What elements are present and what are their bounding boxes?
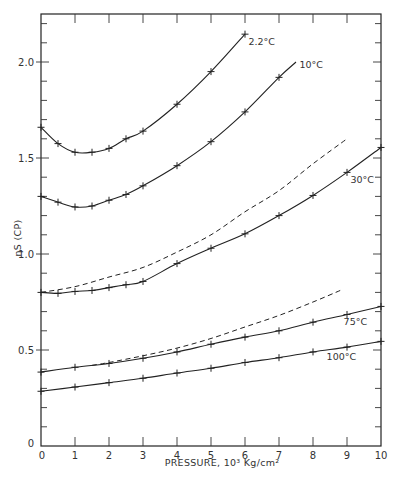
series-line-30-c-dashed — [41, 139, 347, 293]
data-point-30-c — [242, 230, 249, 237]
data-point-75-c — [106, 360, 113, 367]
series-line-10-c — [41, 62, 296, 207]
series-line-30-c — [41, 147, 381, 293]
x-tick-label: 0 — [39, 450, 45, 461]
axis-ticks — [36, 14, 381, 446]
data-point-75-c — [208, 341, 215, 348]
data-point-30-c — [106, 284, 113, 291]
curve-label: 2.2°C — [248, 36, 275, 47]
curve-label: 100°C — [327, 351, 357, 362]
data-point-75-c — [174, 348, 181, 355]
data-point-30-c — [208, 245, 215, 252]
data-point-100-c — [140, 375, 147, 382]
x-tick-label: 2 — [106, 450, 112, 461]
data-series — [38, 31, 385, 395]
data-point-100-c — [344, 344, 351, 351]
x-tick-label: 1 — [72, 450, 78, 461]
x-tick-label: 10 — [375, 450, 388, 461]
data-point-2-2-c — [140, 128, 147, 135]
data-point-30-c — [140, 278, 147, 285]
y-axis-title: ηS (CP) — [12, 220, 23, 257]
y-tick-label: 2.0 — [18, 57, 34, 68]
data-point-75-c — [72, 364, 79, 371]
curve-label: 10°C — [299, 59, 323, 70]
data-point-100-c — [72, 384, 79, 391]
data-point-75-c — [310, 319, 317, 326]
x-tick-label: 3 — [140, 450, 146, 461]
data-point-30-c — [174, 260, 181, 267]
data-point-75-c — [242, 334, 249, 341]
data-point-100-c — [208, 365, 215, 372]
data-point-75-c — [276, 327, 283, 334]
data-point-2-2-c — [72, 149, 79, 156]
data-point-10-c — [123, 191, 130, 198]
data-point-10-c — [106, 197, 113, 204]
data-point-30-c — [310, 192, 317, 199]
x-tick-label: 8 — [310, 450, 316, 461]
series-line-75-c — [41, 306, 381, 372]
x-axis-title: PRESSURE, 10³ Kg/cm² — [165, 457, 280, 468]
data-point-10-c — [174, 162, 181, 169]
y-tick-label: 0.5 — [18, 345, 34, 356]
curve-label: 75°C — [344, 316, 368, 327]
y-tick-label: 0 — [28, 438, 34, 449]
curve-label: 30°C — [350, 174, 374, 185]
plot-frame — [41, 14, 381, 446]
data-point-30-c — [276, 212, 283, 219]
data-point-10-c — [140, 182, 147, 189]
data-point-30-c — [89, 287, 96, 294]
data-point-100-c — [310, 348, 317, 355]
data-point-2-2-c — [106, 145, 113, 152]
data-point-100-c — [378, 338, 385, 345]
data-point-10-c — [72, 203, 79, 210]
data-point-10-c — [55, 199, 62, 206]
data-point-75-c — [140, 355, 147, 362]
series-line-2-2-c — [41, 34, 245, 153]
data-point-100-c — [106, 379, 113, 386]
data-point-30-c — [72, 288, 79, 295]
data-point-2-2-c — [89, 149, 96, 156]
data-point-75-c — [378, 303, 385, 310]
data-point-10-c — [38, 193, 45, 200]
data-point-100-c — [174, 370, 181, 377]
data-point-100-c — [276, 354, 283, 361]
data-point-30-c — [38, 289, 45, 296]
data-point-30-c — [55, 290, 62, 297]
data-point-2-2-c — [123, 135, 130, 142]
y-tick-label: 1.5 — [18, 153, 34, 164]
data-point-10-c — [89, 203, 96, 210]
data-point-100-c — [242, 359, 249, 366]
x-tick-label: 9 — [344, 450, 350, 461]
viscosity-pressure-chart: 012345678910 00.51.01.52.0 2.2°C10°C30°C… — [0, 0, 394, 479]
data-point-30-c — [123, 281, 130, 288]
